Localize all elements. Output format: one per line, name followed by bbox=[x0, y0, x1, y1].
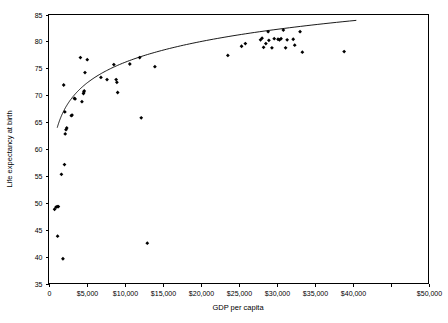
data-point bbox=[342, 50, 346, 54]
x-tick-label-40000: $40,000 bbox=[341, 290, 366, 297]
y-tick-label-80: 80 bbox=[35, 38, 43, 45]
data-point bbox=[285, 38, 289, 42]
x-tick-label-5000: $5,000 bbox=[77, 290, 99, 297]
data-point bbox=[272, 37, 276, 41]
y-tick-label-45: 45 bbox=[35, 227, 43, 234]
x-tick-label-25000: $25,000 bbox=[227, 290, 252, 297]
x-axis-title: GDP per capita bbox=[212, 303, 264, 312]
y-axis-title: Life expectancy at birth bbox=[5, 110, 14, 187]
y-axis: 3540455055606570758085 bbox=[35, 12, 49, 288]
data-point bbox=[56, 234, 60, 238]
x-tick-label-35000: $35,000 bbox=[303, 290, 328, 297]
data-point bbox=[291, 37, 295, 41]
data-point bbox=[99, 76, 103, 80]
data-point bbox=[226, 53, 230, 57]
y-tick-label-40: 40 bbox=[35, 254, 43, 261]
data-point bbox=[83, 71, 87, 75]
data-point bbox=[62, 83, 66, 87]
trend-line bbox=[57, 20, 356, 127]
data-point bbox=[79, 56, 83, 60]
x-tick-label-20000: $20,000 bbox=[189, 290, 214, 297]
x-tick-label-50000: $50,000 bbox=[417, 290, 442, 297]
y-tick-label-60: 60 bbox=[35, 146, 43, 153]
data-point bbox=[262, 45, 266, 49]
data-point bbox=[270, 46, 274, 50]
data-points bbox=[53, 28, 346, 260]
y-tick-label-65: 65 bbox=[35, 119, 43, 126]
data-point bbox=[128, 62, 132, 66]
data-point bbox=[300, 50, 304, 54]
data-point bbox=[85, 58, 89, 62]
data-point bbox=[284, 46, 288, 50]
data-point bbox=[80, 100, 84, 104]
data-point bbox=[243, 42, 247, 46]
data-point bbox=[115, 80, 119, 84]
data-point bbox=[63, 132, 67, 136]
x-tick-label-0: 0 bbox=[48, 290, 52, 297]
y-tick-label-50: 50 bbox=[35, 200, 43, 207]
data-point bbox=[153, 65, 157, 69]
data-point bbox=[240, 44, 244, 48]
y-tick-label-70: 70 bbox=[35, 92, 43, 99]
plot-border bbox=[49, 15, 429, 284]
y-tick-label-35: 35 bbox=[35, 281, 43, 288]
x-tick-label-10000: $10,000 bbox=[113, 290, 138, 297]
data-point bbox=[145, 241, 149, 245]
data-point bbox=[114, 78, 118, 82]
y-tick-label-85: 85 bbox=[35, 12, 43, 19]
y-tick-label-75: 75 bbox=[35, 65, 43, 72]
data-point bbox=[139, 116, 143, 120]
data-point bbox=[105, 78, 109, 82]
data-point bbox=[116, 91, 120, 95]
x-tick-label-30000: $30,000 bbox=[265, 290, 290, 297]
data-point bbox=[63, 163, 67, 167]
scatter-plot: 3540455055606570758085 0$5,000$10,000$15… bbox=[0, 0, 448, 323]
y-tick-label-55: 55 bbox=[35, 173, 43, 180]
chart-figure: 3540455055606570758085 0$5,000$10,000$15… bbox=[0, 0, 448, 323]
data-point bbox=[267, 38, 271, 42]
data-point bbox=[298, 30, 302, 34]
x-axis: 0$5,000$10,000$15,000$20,000$25,000$30,0… bbox=[48, 284, 443, 297]
plot-frame bbox=[49, 15, 429, 284]
data-point bbox=[112, 63, 116, 67]
data-point bbox=[293, 43, 297, 47]
data-point bbox=[60, 172, 64, 176]
data-point bbox=[264, 42, 268, 46]
x-tick-label-15000: $15,000 bbox=[151, 290, 176, 297]
data-point bbox=[61, 257, 65, 261]
